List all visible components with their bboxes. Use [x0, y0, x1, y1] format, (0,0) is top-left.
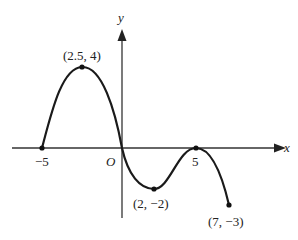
max-point-label: (2.5, 4) [63, 48, 101, 63]
function-curve [42, 67, 229, 205]
end-point-label: (7, −3) [208, 214, 244, 229]
point-max [79, 64, 84, 69]
tick-label-5: 5 [192, 154, 199, 169]
origin-label: O [106, 154, 116, 169]
tick-label-neg5: −5 [35, 154, 49, 169]
y-axis-arrow-icon [118, 29, 127, 41]
point-neg5-0 [39, 145, 44, 150]
point-min [151, 186, 156, 191]
point-end [226, 202, 231, 207]
point-5-0 [193, 145, 198, 150]
min-point-label: (2, −2) [133, 196, 169, 211]
function-graph: y x O −5 5 (2.5, 4) (2, −2) (7, −3) [0, 0, 298, 240]
graph-canvas: y x O −5 5 (2.5, 4) (2, −2) (7, −3) [0, 0, 298, 240]
x-axis-label: x [283, 140, 290, 155]
y-axis-label: y [116, 10, 124, 25]
